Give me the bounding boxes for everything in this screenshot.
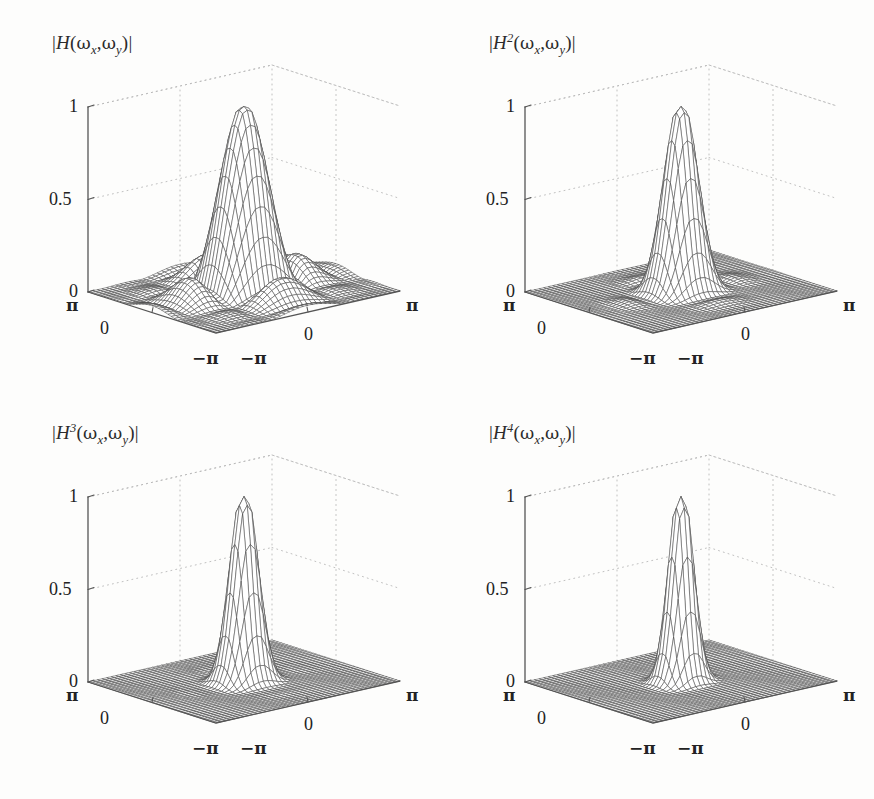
x-tick-label-neg-pi: −π <box>677 348 704 368</box>
mesh-surface <box>525 497 837 724</box>
z-tick-label: 1 <box>69 486 78 507</box>
z-tick-label: 1 <box>506 486 515 507</box>
x-tick-label-pi: π <box>406 685 418 705</box>
y-tick-label-pi: π <box>66 295 78 315</box>
mesh-surface <box>88 497 400 724</box>
z-tick-label: 1 <box>506 96 515 117</box>
figure-canvas: |H(ωx,ωy)| 00.51π0−π−π0π |H2(ωx,ωy)| 00.… <box>0 0 874 799</box>
x-tick-label-pi: π <box>406 295 418 315</box>
y-tick-label-zero: 0 <box>537 318 546 339</box>
surface-panel: |H(ωx,ωy)| 00.51π0−π−π0π <box>0 0 437 399</box>
y-tick-label-zero: 0 <box>100 318 109 339</box>
surface-panel: |H4(ωx,ωy)| 00.51π0−π−π0π <box>437 390 874 789</box>
x-tick-label-neg-pi: −π <box>677 738 704 758</box>
y-tick-label-zero: 0 <box>100 708 109 729</box>
y-tick-label-neg-pi: −π <box>192 348 219 368</box>
x-tick-label-zero: 0 <box>741 324 750 345</box>
y-tick-label-pi: π <box>503 685 515 705</box>
y-tick-label-neg-pi: −π <box>629 738 656 758</box>
x-tick-label-neg-pi: −π <box>240 348 267 368</box>
y-tick-label-neg-pi: −π <box>192 738 219 758</box>
x-tick-label-zero: 0 <box>304 714 313 735</box>
x-tick-label-zero: 0 <box>741 714 750 735</box>
z-tick-label: 0.5 <box>486 189 509 210</box>
y-tick-label-pi: π <box>503 295 515 315</box>
x-tick-label-pi: π <box>843 295 855 315</box>
y-tick-label-zero: 0 <box>537 708 546 729</box>
z-tick-label: 1 <box>69 96 78 117</box>
z-tick-label: 0.5 <box>49 189 72 210</box>
z-tick-label: 0.5 <box>486 579 509 600</box>
x-tick-label-zero: 0 <box>304 324 313 345</box>
z-tick-label: 0.5 <box>49 579 72 600</box>
x-tick-label-neg-pi: −π <box>240 738 267 758</box>
surface-panel: |H3(ωx,ωy)| 00.51π0−π−π0π <box>0 390 437 789</box>
y-tick-label-neg-pi: −π <box>629 348 656 368</box>
y-tick-label-pi: π <box>66 685 78 705</box>
surface-panel: |H2(ωx,ωy)| 00.51π0−π−π0π <box>437 0 874 399</box>
x-tick-label-pi: π <box>843 685 855 705</box>
mesh-surface <box>88 107 400 333</box>
mesh-surface <box>525 107 837 334</box>
